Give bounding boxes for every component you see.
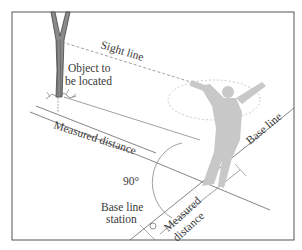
station-label-line1: Base line	[101, 201, 143, 213]
base-line-label: Base line	[244, 110, 284, 147]
diagram-canvas: Sight line Object to be located Measured…	[0, 0, 302, 250]
station-marker-icon	[150, 223, 156, 229]
object-label-line1: Object to	[68, 62, 111, 75]
sight-line-label: Sight line	[99, 38, 145, 63]
tick-end	[235, 164, 246, 176]
right-angle-arc	[152, 143, 182, 218]
tick-station	[140, 225, 155, 240]
measured-distance-label: Measured distance	[52, 118, 137, 156]
object-label-line2: be located	[65, 75, 112, 87]
angle-label: 90°	[123, 175, 140, 187]
station-label-line2: station	[106, 213, 137, 225]
